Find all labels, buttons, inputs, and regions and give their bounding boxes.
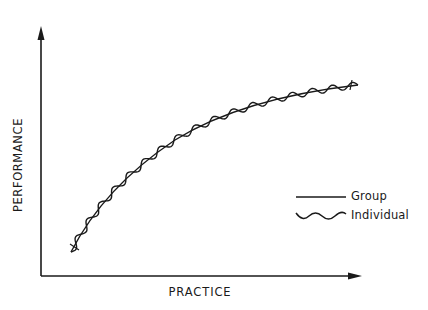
legend-item-group: Group <box>294 186 424 205</box>
legend-label-individual: Individual <box>351 208 409 222</box>
legend: Group Individual <box>294 186 424 224</box>
curve-end-mark <box>350 80 352 90</box>
straight-line-icon <box>294 190 348 202</box>
group-curve <box>71 85 358 252</box>
legend-label-group: Group <box>351 189 387 203</box>
wavy-line-icon <box>294 209 348 221</box>
x-axis-arrow-icon <box>348 273 362 280</box>
y-axis-arrow-icon <box>38 26 45 40</box>
y-axis-label: PERFORMANCE <box>11 105 27 225</box>
individual-curve <box>71 82 358 252</box>
legend-item-individual: Individual <box>294 205 424 224</box>
learning-curve-diagram <box>0 0 428 310</box>
x-axis-label: PRACTICE <box>150 285 250 299</box>
